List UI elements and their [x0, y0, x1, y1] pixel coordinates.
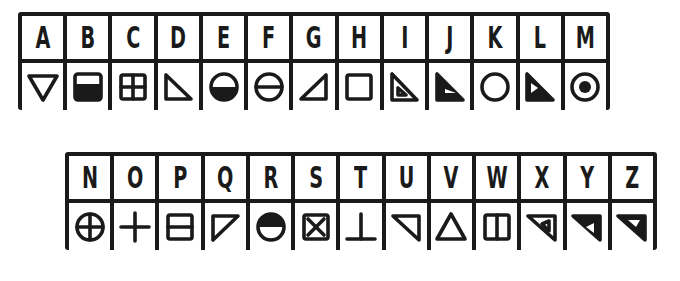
letter-label: K	[487, 22, 502, 53]
letter-cell-r: R	[250, 156, 291, 199]
letter-cell-z: Z	[612, 156, 653, 199]
letter-label: G	[306, 22, 322, 53]
triangle-right-bottom-inner-icon	[386, 69, 422, 105]
letter-label: W	[486, 162, 507, 193]
up-tack-icon	[343, 209, 379, 245]
letter-cell-k: K	[474, 16, 515, 59]
square-horizontal-line-icon	[162, 209, 198, 245]
letter-label: P	[173, 162, 187, 193]
letter-cell-b: B	[67, 16, 108, 59]
symbol-cell-z	[612, 203, 653, 250]
symbol-cell-y	[567, 203, 608, 250]
symbol-cell-m	[565, 63, 606, 110]
symbol-cell-l	[520, 63, 561, 110]
letter-label: F	[262, 22, 275, 53]
square-bottom-filled-icon	[70, 69, 106, 105]
symbol-cell-w	[476, 203, 517, 250]
letter-cell-u: U	[386, 156, 427, 199]
symbol-cell-b	[67, 63, 108, 110]
letter-label: X	[534, 162, 549, 193]
triangle-top-right-filled-inner-left-icon	[569, 209, 605, 245]
letter-label: R	[263, 162, 278, 193]
symbol-cell-u	[386, 203, 427, 250]
letter-cell-y: Y	[567, 156, 608, 199]
circle-dot-icon	[567, 69, 603, 105]
letter-label: M	[576, 22, 595, 53]
letter-label: A	[35, 22, 50, 53]
symbol-cell-k	[474, 63, 515, 110]
circle-top-filled-icon	[253, 209, 289, 245]
triangle-top-right-filled-inner-top-icon	[614, 209, 650, 245]
letter-label: O	[127, 162, 143, 193]
cipher-table-a-to-m: ABCDEFGHIJKLM	[18, 12, 610, 110]
letter-cell-h: H	[339, 16, 380, 59]
triangle-top-right-icon	[388, 209, 424, 245]
letter-label: T	[354, 162, 367, 193]
symbol-cell-c	[112, 63, 153, 110]
square-quad-icon	[115, 69, 151, 105]
letter-cell-g: G	[293, 16, 334, 59]
circle-bottom-filled-icon	[206, 69, 242, 105]
letter-label: L	[534, 22, 546, 53]
symbol-cell-o	[114, 203, 155, 250]
circle-icon	[477, 69, 513, 105]
letter-label: Y	[580, 162, 594, 193]
symbol-cell-e	[203, 63, 244, 110]
symbol-cell-q	[205, 203, 246, 250]
letter-label: D	[170, 22, 186, 53]
letter-cell-o: O	[114, 156, 155, 199]
symbol-cell-i	[384, 63, 425, 110]
letter-cell-s: S	[295, 156, 336, 199]
letter-label: E	[217, 22, 230, 53]
symbol-cell-r	[250, 203, 291, 250]
letter-cell-v: V	[431, 156, 472, 199]
symbol-cell-t	[340, 203, 381, 250]
letter-label: V	[444, 162, 459, 193]
letter-label: B	[81, 22, 96, 53]
letter-cell-q: Q	[205, 156, 246, 199]
letter-cell-n: N	[69, 156, 110, 199]
letter-cell-x: X	[521, 156, 562, 199]
symbol-cell-n	[69, 203, 110, 250]
square-x-icon	[298, 209, 334, 245]
cipher-table-n-to-z: NOPQRSTUVWXYZ	[65, 152, 657, 250]
letter-cell-t: T	[340, 156, 381, 199]
symbol-cell-p	[159, 203, 200, 250]
symbol-cell-v	[431, 203, 472, 250]
letter-cell-m: M	[565, 16, 606, 59]
triangle-left-bottom-icon	[296, 69, 332, 105]
letter-cell-d: D	[158, 16, 199, 59]
letter-cell-j: J	[429, 16, 470, 59]
circle-horizontal-line-icon	[251, 69, 287, 105]
letter-label: Z	[625, 162, 639, 193]
triangle-top-left-icon	[207, 209, 243, 245]
symbol-cell-h	[339, 63, 380, 110]
square-vertical-line-icon	[479, 209, 515, 245]
letter-cell-l: L	[520, 16, 561, 59]
letter-cell-c: C	[112, 16, 153, 59]
letter-cell-i: I	[384, 16, 425, 59]
circle-cross-icon	[72, 209, 108, 245]
triangle-right-bottom-filled-left-notch-icon	[522, 69, 558, 105]
letter-label: H	[351, 22, 367, 53]
triangle-right-bottom-icon	[160, 69, 196, 105]
triangle-up-icon	[433, 209, 469, 245]
letter-label: S	[309, 162, 323, 193]
symbol-cell-a	[22, 63, 63, 110]
letter-label: N	[82, 162, 98, 193]
letter-cell-w: W	[476, 156, 517, 199]
square-icon	[341, 69, 377, 105]
letter-label: U	[398, 162, 414, 193]
letter-cell-p: P	[159, 156, 200, 199]
symbol-cell-j	[429, 63, 470, 110]
letter-cell-f: F	[248, 16, 289, 59]
triangle-right-bottom-filled-inner-icon	[432, 69, 468, 105]
symbol-cell-d	[158, 63, 199, 110]
letter-label: I	[401, 22, 408, 53]
letter-cell-a: A	[22, 16, 63, 59]
symbol-cell-f	[248, 63, 289, 110]
plus-icon	[117, 209, 153, 245]
triangle-top-right-inner-icon	[524, 209, 560, 245]
letter-label: Q	[217, 162, 233, 193]
letter-cell-e: E	[203, 16, 244, 59]
